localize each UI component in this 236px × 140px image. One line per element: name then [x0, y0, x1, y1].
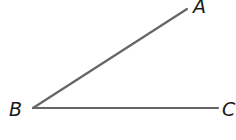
ray-ba	[33, 9, 187, 108]
angle-diagram: A B C	[0, 0, 236, 140]
point-label-a: A	[193, 0, 206, 16]
point-label-c: C	[222, 100, 235, 119]
point-label-b: B	[9, 100, 22, 119]
angle-drawing	[0, 0, 236, 140]
